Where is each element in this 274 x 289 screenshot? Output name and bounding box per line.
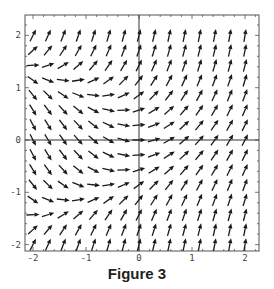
arrow-shaft [152, 49, 154, 57]
arrow-head-icon [243, 223, 247, 228]
arrow-head-icon [198, 29, 202, 34]
arrow-shaft [151, 79, 155, 86]
x-tick-label: 2 [242, 253, 247, 262]
arrow-head-icon [198, 44, 202, 49]
arrow-head-icon [243, 238, 247, 243]
arrow-shaft [148, 154, 156, 157]
arrow-shaft [198, 228, 200, 236]
arrow-shaft [228, 198, 231, 206]
arrow-shaft [181, 184, 185, 191]
arrow-shaft [152, 213, 155, 220]
arrow-shaft [228, 49, 230, 57]
arrow-shaft [44, 229, 49, 235]
figure-caption: Figure 3 [0, 265, 274, 282]
arrow-head-icon [122, 29, 126, 34]
arrow-shaft [183, 34, 185, 42]
arrow-shaft [57, 79, 65, 80]
arrow-shaft [198, 64, 200, 72]
arrow-head-icon [108, 209, 113, 214]
arrow-shaft [92, 34, 94, 42]
arrow-shaft [180, 124, 186, 129]
y-tick-label: 2 [16, 30, 21, 40]
arrow-shaft [117, 154, 125, 156]
arrow-head-icon [228, 208, 232, 213]
arrow-shaft [213, 228, 215, 236]
arrow-shaft [164, 109, 170, 114]
arrow-head-icon [168, 209, 172, 214]
arrow-shaft [227, 154, 231, 161]
arrow-shaft [167, 213, 170, 220]
direction-field-plot: -2-1012-2-1012 [0, 0, 274, 262]
arrow-shaft [227, 183, 230, 190]
arrow-head-icon [198, 238, 202, 243]
arrow-shaft [227, 124, 231, 131]
arrow-head-icon [198, 209, 202, 214]
arrow-shaft [211, 124, 215, 131]
arrow-shaft [183, 49, 185, 57]
arrow-shaft [122, 228, 125, 235]
arrow-shaft [46, 243, 49, 250]
arrow-head-icon [107, 238, 111, 243]
arrow-shaft [198, 243, 200, 251]
arrow-shaft [181, 94, 185, 101]
arrow-shaft [182, 198, 185, 205]
arrow-shaft [58, 91, 65, 96]
arrow-shaft [212, 79, 215, 87]
arrow-shaft [213, 49, 215, 57]
arrow-head-icon [183, 29, 187, 34]
arrow-head-icon [141, 138, 146, 142]
arrow-head-icon [198, 223, 202, 228]
arrow-shaft [72, 200, 80, 201]
tick-labels: -2-1012-2-1012 [10, 30, 248, 262]
arrow-shaft [58, 65, 65, 69]
arrow-shaft [87, 94, 95, 95]
arrow-shaft [211, 109, 215, 116]
arrow-shaft [228, 213, 230, 221]
arrow-shaft [149, 109, 156, 113]
arrow-head-icon [243, 44, 247, 49]
arrow-shaft [29, 90, 34, 96]
arrow-shaft [227, 109, 231, 116]
arrow-head-icon [108, 60, 113, 65]
axis-ticks [25, 15, 259, 251]
arrow-shaft [152, 64, 155, 71]
arrow-head-icon [183, 59, 187, 64]
arrow-head-icon [62, 29, 66, 34]
arrow-head-icon [168, 44, 172, 49]
axis-lines [25, 15, 259, 251]
arrow-shaft [45, 149, 49, 156]
arrow-head-icon [92, 238, 96, 243]
arrow-head-icon [243, 89, 247, 94]
arrow-shaft [28, 229, 34, 234]
arrow-shaft [196, 169, 201, 176]
arrow-head-icon [243, 208, 247, 213]
arrow-shaft [60, 49, 64, 56]
arrow-shaft [211, 169, 215, 176]
arrow-head-icon [80, 78, 85, 82]
arrow-shaft [122, 34, 124, 42]
arrow-shaft [30, 105, 34, 112]
arrow-shaft [73, 106, 79, 111]
arrow-shaft [42, 78, 49, 81]
arrow-head-icon [49, 212, 54, 216]
arrow-head-icon [110, 168, 115, 172]
arrow-head-icon [122, 224, 126, 229]
arrow-head-icon [213, 29, 217, 34]
arrow-shaft [183, 243, 185, 251]
arrow-head-icon [77, 238, 81, 243]
arrow-shaft [164, 124, 171, 128]
arrow-shaft [103, 79, 109, 84]
arrow-shaft [229, 243, 230, 251]
arrow-shaft [166, 198, 170, 205]
arrow-shaft [122, 243, 124, 251]
arrow-shaft [61, 34, 64, 41]
arrow-shaft [30, 119, 34, 126]
arrow-shaft [29, 180, 34, 186]
arrow-shaft [149, 169, 156, 173]
arrow-shaft [74, 64, 80, 69]
arrow-shaft [196, 94, 200, 101]
arrow-shaft [242, 169, 245, 176]
arrow-shaft [212, 94, 215, 101]
arrow-shaft [198, 34, 200, 42]
arrow-shaft [242, 124, 246, 131]
